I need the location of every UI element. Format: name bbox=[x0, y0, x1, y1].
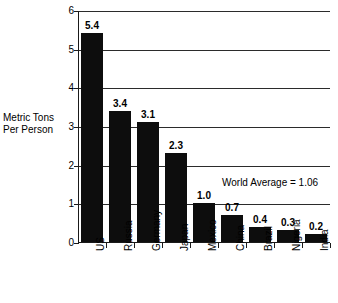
y-axis-tick bbox=[74, 11, 79, 12]
x-axis-tick bbox=[190, 243, 191, 248]
x-axis-tick bbox=[274, 243, 275, 248]
x-axis-category-label: Russia bbox=[124, 220, 134, 251]
gridline bbox=[78, 50, 330, 51]
bar-value-label: 2.3 bbox=[165, 141, 187, 151]
x-axis-tick bbox=[246, 243, 247, 248]
y-axis-tick-label: 0 bbox=[60, 238, 74, 248]
x-axis-category-label: China bbox=[236, 225, 246, 251]
y-axis-tick bbox=[74, 50, 79, 51]
bar-chart: Metric Tons Per Person 0123456 5.43.43.1… bbox=[0, 0, 338, 303]
bar-value-label: 5.4 bbox=[81, 21, 103, 31]
y-axis-tick-label: 2 bbox=[60, 161, 74, 171]
bar-value-label: 3.1 bbox=[137, 110, 159, 120]
plot-area: 0123456 5.43.43.12.31.00.70.40.30.2 bbox=[78, 11, 330, 243]
x-axis-tick bbox=[330, 243, 331, 248]
gridline bbox=[78, 88, 330, 89]
y-axis-tick-label: 4 bbox=[60, 83, 74, 93]
x-axis-tick bbox=[218, 243, 219, 248]
bar-value-label: 0.7 bbox=[221, 203, 243, 213]
x-axis-tick bbox=[302, 243, 303, 248]
x-axis-category-label: Brazil bbox=[264, 226, 274, 251]
y-axis-tick-label: 1 bbox=[60, 199, 74, 209]
y-axis-tick bbox=[74, 88, 79, 89]
bar-value-label: 1.0 bbox=[193, 191, 215, 201]
x-axis-category-label: Germany bbox=[152, 210, 162, 251]
x-axis-category-label: Japan bbox=[180, 224, 190, 251]
bar-value-label: 0.4 bbox=[249, 215, 271, 225]
y-axis-tick bbox=[74, 243, 79, 244]
y-axis-tick bbox=[74, 127, 79, 128]
x-axis-category-label: India bbox=[320, 229, 330, 251]
y-axis-tick bbox=[74, 204, 79, 205]
x-axis-category-label: Mexico bbox=[208, 219, 218, 251]
x-axis-tick bbox=[134, 243, 135, 248]
x-axis-tick bbox=[162, 243, 163, 248]
bar-value-label: 3.4 bbox=[109, 99, 131, 109]
gridline bbox=[78, 11, 330, 12]
x-axis-category-label: US bbox=[96, 237, 106, 251]
y-axis-tick-label: 6 bbox=[60, 6, 74, 16]
y-axis-tick-label: 5 bbox=[60, 45, 74, 55]
x-axis-category-label: Nigeria bbox=[292, 219, 302, 251]
y-axis-tick bbox=[74, 166, 79, 167]
bar bbox=[81, 33, 103, 242]
y-axis-tick-label: 3 bbox=[60, 122, 74, 132]
x-axis-tick bbox=[106, 243, 107, 248]
world-average-annotation: World Average = 1.06 bbox=[222, 177, 318, 188]
